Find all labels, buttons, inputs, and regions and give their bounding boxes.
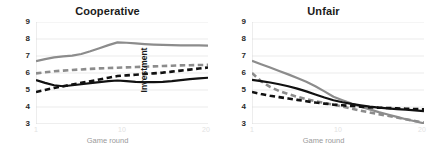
y-tick-label: 3 [16,120,30,128]
chart-title: Cooperative [0,5,215,17]
series-gray-dashed [36,65,208,74]
gridlines [36,22,208,124]
x-tick-label: 20 [202,126,210,133]
y-tick-label: 9 [232,18,246,26]
y-tick-label: 5 [232,86,246,94]
series-gray-solid [252,61,424,124]
plot-svg [36,22,208,124]
chart-panel-unfair: Unfair Investment 9 8 7 6 5 4 3 [216,0,431,157]
y-tick-label: 5 [16,86,30,94]
x-tick-label: 20 [418,126,426,133]
chart-panel-cooperative: Cooperative Investment 9 8 7 6 5 4 3 [0,0,215,157]
y-tick-label: 4 [16,103,30,111]
series-gray-solid [36,42,208,61]
y-tick-label: 8 [232,35,246,43]
x-tick-label: 10 [334,126,342,133]
chart-title: Unfair [216,5,431,17]
x-axis-label: Game round [216,136,431,145]
series-black-solid [36,78,208,87]
y-tick-label: 8 [16,35,30,43]
y-tick-label: 6 [16,69,30,77]
x-tick-label: 10 [118,126,126,133]
series-lines [252,61,424,124]
figure-root: Cooperative Investment 9 8 7 6 5 4 3 [0,0,431,157]
x-tick-label: 1 [250,126,254,133]
y-axis-label: Investment [139,24,151,116]
plot-svg [252,22,424,124]
x-tick-label: 1 [34,126,38,133]
y-tick-label: 7 [232,52,246,60]
y-tick-label: 3 [232,120,246,128]
series-lines [36,42,208,92]
x-axis-label: Game round [0,136,215,145]
plot-area [36,22,208,124]
y-tick-label: 9 [16,18,30,26]
plot-area [252,22,424,124]
y-tick-label: 4 [232,103,246,111]
y-tick-label: 6 [232,69,246,77]
y-tick-label: 7 [16,52,30,60]
